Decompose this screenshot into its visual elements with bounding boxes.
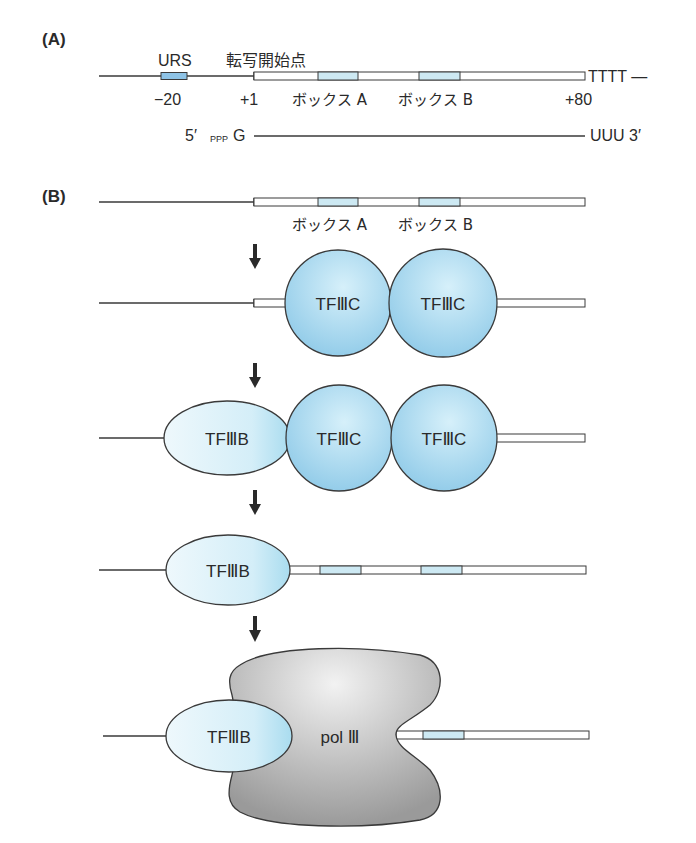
box-b-label: ボックス B [398, 91, 473, 109]
row4-box-b [421, 566, 462, 574]
pol-iii-label: pol Ⅲ [320, 728, 359, 747]
row1-gene [99, 198, 585, 206]
panel-a-label: (A) [42, 30, 66, 49]
row1-box-b-label: ボックス B [398, 216, 473, 234]
box-a-label: ボックス A [292, 91, 368, 109]
row4-box-a [320, 566, 361, 574]
rna-g: G [233, 127, 245, 144]
rna-5prime: 5′ [185, 127, 197, 144]
row3-tfiiib-label: TFⅢB [205, 430, 249, 449]
rna-transcript: 5′ PPP G UUU 3′ [185, 127, 641, 144]
row2-tfiiic-2-label: TFⅢC [421, 295, 466, 314]
pos-plus80: +80 [565, 91, 592, 108]
rna-3prime: UUU 3′ [590, 127, 641, 144]
panel-b-label: (B) [42, 187, 66, 206]
tfiiic-transcription-diagram: (A) URS 転写開始点 TTTT — −20 +1 ボックス A ボックス … [0, 0, 696, 843]
box-a [318, 72, 358, 80]
arrow-down-icon [249, 363, 261, 388]
row4-tfiiib-label: TFⅢB [206, 562, 250, 581]
row5-tfiiib-label: TFⅢB [207, 728, 251, 747]
tss-label: 転写開始点 [226, 51, 306, 70]
pos-minus20: −20 [154, 91, 181, 108]
row1-box-b [419, 198, 460, 206]
arrow-down-icon [249, 616, 261, 642]
pos-plus1: +1 [240, 91, 258, 108]
gene-a [99, 72, 585, 80]
rna-ppp: PPP [210, 134, 228, 144]
row2-tfiiic-1-label: TFⅢC [316, 295, 361, 314]
arrow-down-icon [249, 244, 261, 269]
urs-box [161, 73, 187, 80]
arrow-down-icon [249, 490, 261, 515]
row1-box-a [318, 198, 358, 206]
row5-box-b [423, 731, 464, 739]
row1-box-a-label: ボックス A [292, 216, 368, 234]
box-b [419, 72, 460, 80]
row3-tfiiic-2-label: TFⅢC [422, 430, 467, 449]
urs-label: URS [158, 52, 192, 69]
terminator-label: TTTT — [588, 68, 647, 85]
row3-tfiiic-1-label: TFⅢC [317, 430, 362, 449]
